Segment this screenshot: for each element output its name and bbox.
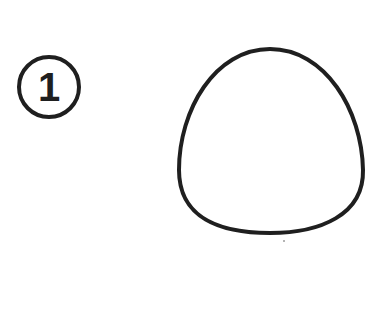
step-number: 1 (38, 65, 60, 109)
speck (283, 240, 285, 242)
step-badge: 1 (19, 57, 79, 117)
rounded-egg-shape (179, 49, 363, 233)
diagram-canvas: 1 (0, 0, 385, 311)
